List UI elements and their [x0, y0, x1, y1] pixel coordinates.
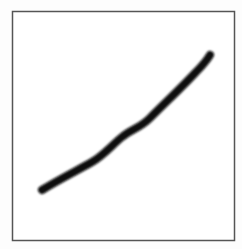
- drawing-canvas: [0, 0, 242, 249]
- frame-border: [13, 12, 235, 241]
- sketch-drawing: [0, 0, 242, 249]
